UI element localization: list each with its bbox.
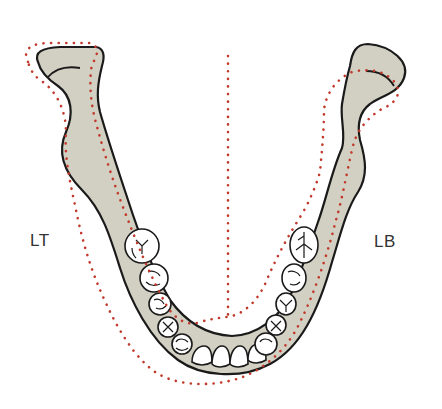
tooth-right-canine (255, 333, 277, 355)
mandible-bone (37, 44, 405, 374)
mandible-illustration (0, 0, 442, 409)
tooth-left-molar-2 (140, 264, 168, 292)
tooth-left-canine (172, 334, 192, 354)
tooth-right-molar-2 (282, 264, 306, 292)
label-lt: LT (30, 231, 50, 251)
tooth-right-premolar-2 (266, 315, 286, 335)
tooth-left-premolar-1 (149, 293, 171, 315)
mandible-diagram: LT LB (0, 0, 442, 409)
label-lb: LB (374, 232, 396, 252)
